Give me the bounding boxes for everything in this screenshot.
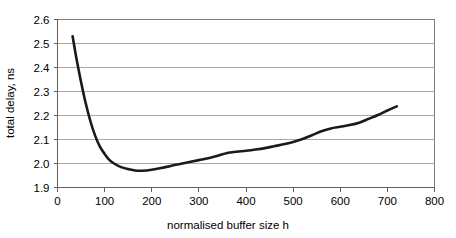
x-axis-tick-label: 100: [95, 195, 114, 207]
x-axis-tick-label: 800: [425, 195, 444, 207]
y-axis-tick-label: 2.2: [34, 110, 50, 122]
y-axis-tick-label: 2.3: [34, 86, 50, 98]
y-axis-tick-label: 1.9: [34, 182, 50, 194]
x-axis-tick-label: 0: [54, 195, 60, 207]
x-axis-tick-label: 500: [284, 195, 303, 207]
x-axis-title: normalised buffer size h: [167, 219, 289, 231]
x-axis-tick-label: 700: [378, 195, 397, 207]
y-axis-tick-label: 2.5: [34, 38, 50, 50]
chart-container: 1.92.02.12.22.32.42.52.6 010020030040050…: [0, 0, 456, 238]
y-axis-tick-label: 2.1: [34, 134, 50, 146]
y-axis-tick-label: 2.6: [34, 14, 50, 26]
x-axis-tick-label: 200: [142, 195, 161, 207]
y-axis-tick-label: 2.4: [34, 62, 51, 74]
y-axis-tick-label: 2.0: [34, 158, 50, 170]
delay-vs-buffer-size-line-chart: 1.92.02.12.22.32.42.52.6 010020030040050…: [0, 0, 456, 238]
x-axis-tick-label: 300: [189, 195, 208, 207]
x-axis-tick-label: 600: [331, 195, 350, 207]
x-axis-tick-label: 400: [236, 195, 255, 207]
x-axis-tick-labels: 0100200300400500600700800: [54, 195, 444, 207]
y-axis-title: total delay, ns: [4, 68, 16, 138]
